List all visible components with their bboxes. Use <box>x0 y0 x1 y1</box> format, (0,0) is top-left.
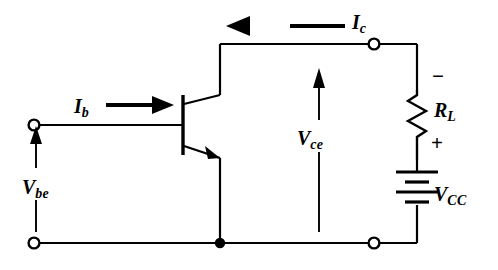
base-emitter-voltage-subscript: be <box>35 186 49 201</box>
load-resistor-zigzag <box>408 90 426 160</box>
terminal-emitter-input <box>29 238 40 249</box>
base-current-label: Ib <box>74 96 89 116</box>
terminal-base-input <box>29 120 40 131</box>
base-emitter-voltage-label: Vbe <box>22 177 49 197</box>
junction-dot-emitter <box>215 238 225 248</box>
base-current-arrowhead <box>152 96 174 114</box>
collector-lead <box>184 95 220 104</box>
collector-emitter-voltage-subscript: ce <box>310 137 323 152</box>
load-resistor-label: RL <box>434 100 456 120</box>
collector-emitter-voltage-label: Vce <box>297 128 323 148</box>
base-current-subscript: b <box>82 105 89 120</box>
base-emitter-voltage-symbol: V <box>22 176 35 198</box>
circuit-diagram: Ib Ic Vbe Vce RL VCC − + <box>0 0 498 270</box>
supply-voltage-label: VCC <box>434 184 466 204</box>
vce-arrowhead <box>313 68 325 88</box>
supply-voltage-symbol: V <box>434 183 447 205</box>
terminal-collector-output <box>369 39 380 50</box>
collector-current-label: Ic <box>352 12 366 32</box>
minus-sign-resistor-top: − <box>432 66 444 87</box>
plus-sign-resistor-bottom: + <box>431 133 443 154</box>
load-resistor-subscript: L <box>447 109 456 124</box>
collector-current-subscript: c <box>360 21 366 36</box>
collector-emitter-voltage-symbol: V <box>297 127 310 149</box>
base-current-symbol: I <box>74 95 82 117</box>
terminal-emitter-output <box>369 238 380 249</box>
collector-current-symbol: I <box>352 11 360 33</box>
circuit-schematic-svg <box>0 0 498 270</box>
supply-voltage-subscript: CC <box>447 193 466 208</box>
load-resistor-symbol: R <box>434 99 447 121</box>
collector-current-arrowhead <box>226 16 250 36</box>
emitter-arrowhead <box>205 146 220 159</box>
